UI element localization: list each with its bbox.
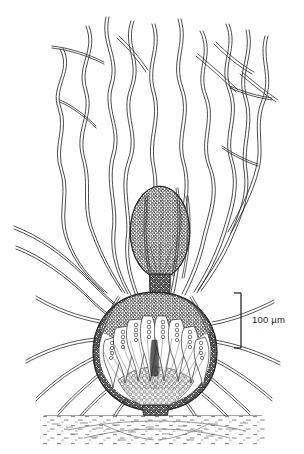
sporangium-body	[93, 292, 217, 411]
central-dark-ascus	[150, 340, 158, 376]
sporangium-illustration	[0, 0, 304, 454]
substrate-texture	[40, 416, 266, 446]
figure-root: 100 µm	[0, 0, 304, 454]
scale-bar-label: 100 µm	[252, 314, 285, 325]
substrate	[40, 416, 266, 446]
